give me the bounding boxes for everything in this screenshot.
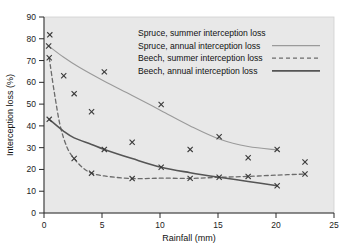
x-tick-label: 15 [213,220,223,230]
y-tick-label: 50 [27,99,37,109]
x-tick-label: 25 [329,220,339,230]
legend-label-2: Beech, summer interception loss [138,53,263,63]
x-tick-label: 0 [42,220,47,230]
y-tick-label: 40 [27,121,37,131]
y-tick-label: 70 [27,56,37,66]
y-tick-label: 60 [27,77,37,87]
y-tick-label: 80 [27,34,37,44]
x-tick-label: 5 [100,220,105,230]
x-tick-label: 20 [271,220,281,230]
chart-container: 0102030405060708090 0510152025 Intercept… [0,0,352,248]
legend-label-1: Spruce, annual interception loss [138,41,260,51]
x-axis-title: Rainfall (mm) [162,233,216,243]
legend-label-3: Beech, annual interception loss [138,66,257,76]
y-tick-label: 20 [27,164,37,174]
legend-label-0: Spruce, summer interception loss [138,28,266,38]
y-tick-label: 10 [27,186,37,196]
y-tick-label: 0 [31,208,36,218]
y-axis-title: Interception loss (%) [5,74,15,156]
y-tick-label: 90 [27,12,37,22]
y-tick-label: 30 [27,143,37,153]
interception-loss-chart: 0102030405060708090 0510152025 Intercept… [0,0,352,248]
x-tick-label: 10 [155,220,165,230]
